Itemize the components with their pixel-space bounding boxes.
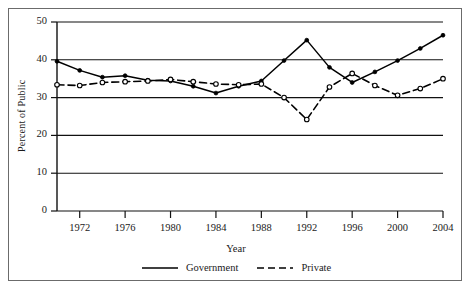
data-point-private [395, 93, 400, 98]
legend-label: Government [186, 262, 239, 273]
chart-legend: GovernmentPrivate [0, 262, 472, 273]
data-point-government [396, 59, 400, 63]
data-point-government [373, 70, 377, 74]
data-point-government [101, 75, 105, 79]
data-point-government [305, 38, 309, 42]
data-point-private [441, 76, 446, 81]
data-point-government [55, 59, 59, 63]
data-point-private [327, 85, 332, 90]
data-point-private [55, 82, 60, 87]
data-point-government [282, 59, 286, 63]
data-point-government [78, 68, 82, 72]
data-point-private [77, 83, 82, 88]
data-point-private [191, 79, 196, 84]
data-point-government [418, 47, 422, 51]
data-point-private [373, 83, 378, 88]
data-point-private [123, 79, 128, 84]
legend-label: Private [301, 262, 331, 273]
legend-swatch-solid [141, 263, 179, 273]
data-point-government [214, 91, 218, 95]
legend-item-private: Private [256, 262, 331, 273]
legend-item-government: Government [141, 262, 239, 273]
data-point-private [418, 86, 423, 91]
series-line-private [57, 73, 443, 119]
data-point-private [350, 71, 355, 76]
data-point-private [304, 117, 309, 122]
data-point-government [441, 33, 445, 37]
data-point-private [100, 80, 105, 85]
data-point-private [168, 77, 173, 82]
data-point-government [328, 65, 332, 69]
data-point-government [123, 74, 127, 78]
data-point-private [146, 79, 151, 84]
data-point-private [282, 95, 287, 100]
line-chart-plot [0, 0, 472, 291]
data-point-government [350, 81, 354, 85]
legend-swatch-dashed [256, 263, 294, 273]
data-point-government [191, 84, 195, 88]
data-point-private [236, 82, 241, 87]
data-point-private [259, 82, 264, 87]
data-point-private [214, 82, 219, 87]
